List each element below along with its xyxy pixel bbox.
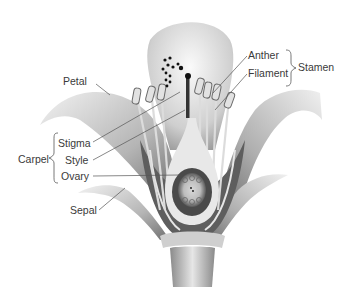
label-ovary: Ovary bbox=[61, 171, 89, 182]
receptacle bbox=[160, 232, 225, 249]
label-style: Style bbox=[65, 155, 88, 166]
flower-illustration bbox=[0, 0, 350, 287]
style bbox=[186, 78, 190, 118]
label-filament: Filament bbox=[248, 68, 288, 79]
label-petal: Petal bbox=[63, 76, 87, 87]
flower-diagram: Petal Stigma Style Ovary Carpel Sepal An… bbox=[0, 0, 350, 287]
label-stigma: Stigma bbox=[58, 138, 91, 149]
label-anther: Anther bbox=[248, 50, 279, 61]
label-sepal: Sepal bbox=[70, 205, 97, 216]
ovary bbox=[178, 173, 206, 207]
carpel-brace bbox=[49, 133, 58, 183]
label-stamen: Stamen bbox=[298, 62, 334, 73]
stigma bbox=[185, 73, 191, 79]
stem bbox=[170, 247, 215, 287]
label-carpel: Carpel bbox=[18, 154, 49, 165]
